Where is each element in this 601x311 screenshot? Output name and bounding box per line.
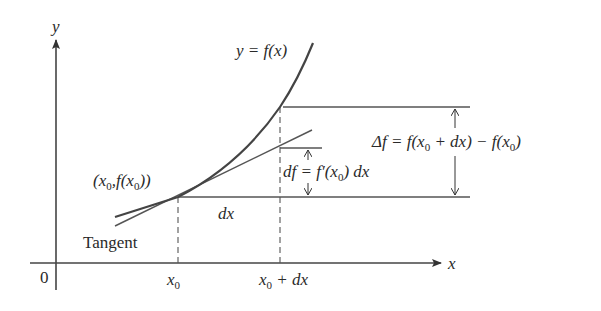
diagram-canvas (0, 0, 601, 311)
origin-label: 0 (40, 269, 49, 286)
curve-label: y = f(x) (236, 42, 287, 59)
dx-label: dx (218, 205, 234, 222)
delta-f-label: Δf = f(x0 + dx) − f(x0) (372, 133, 521, 153)
y-axis-label: y (52, 18, 60, 35)
tangent-label: Tangent (83, 234, 138, 251)
df-label: df = f′(x0) dx (283, 163, 369, 183)
point-label: (x0,f(x0)) (93, 172, 151, 192)
x0-tick-label: x0 (167, 271, 180, 291)
x0-dx-tick-label: x0 + dx (259, 271, 308, 291)
x-axis-label: x (448, 255, 456, 272)
